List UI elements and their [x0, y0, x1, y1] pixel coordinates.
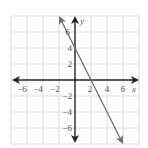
y-tick-label: −2	[62, 91, 72, 101]
x-tick-label: 6	[121, 84, 126, 94]
y-axis-label: y	[79, 16, 84, 26]
y-tick-label: 2	[68, 59, 73, 69]
y-tick-label: −6	[62, 123, 72, 133]
x-tick-label: −4	[33, 84, 43, 94]
y-tick-label: 4	[68, 43, 73, 53]
y-tick-label: 6	[66, 27, 71, 37]
y-tick-label: −4	[62, 107, 72, 117]
x-axis-label: x	[131, 84, 136, 94]
coordinate-graph: −6 −4 −2 2 4 6 x 6 4 2 −2 −4 −6 y	[0, 0, 148, 148]
x-tick-label: −2	[50, 84, 60, 94]
x-tick-label: 4	[105, 84, 110, 94]
x-tick-label: 2	[88, 84, 93, 94]
x-tick-label: −6	[17, 84, 27, 94]
